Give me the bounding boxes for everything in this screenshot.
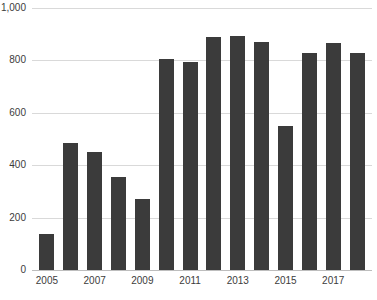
x-tick-label: 2015	[274, 274, 298, 294]
bar[interactable]	[278, 126, 293, 270]
x-tick-label	[107, 274, 131, 294]
bar-slot	[83, 8, 107, 270]
bar-slot	[202, 8, 226, 270]
x-tick-label	[59, 274, 83, 294]
bar[interactable]	[206, 37, 221, 270]
bar-slot	[35, 8, 59, 270]
x-tick-label	[202, 274, 226, 294]
bar-slot	[178, 8, 202, 270]
bar[interactable]	[39, 234, 54, 270]
x-tick-label: 2009	[130, 274, 154, 294]
y-tick-label: 800	[0, 55, 26, 65]
x-tick-label: 2013	[226, 274, 250, 294]
y-tick-label: 600	[0, 108, 26, 118]
bar[interactable]	[254, 42, 269, 270]
bar-slot	[321, 8, 345, 270]
bar[interactable]	[230, 36, 245, 270]
y-tick-label: 200	[0, 213, 26, 223]
x-tick-label	[250, 274, 274, 294]
bar-slot	[226, 8, 250, 270]
x-tick-label	[154, 274, 178, 294]
bar-slot	[130, 8, 154, 270]
bar[interactable]	[326, 43, 341, 270]
x-tick-label: 2011	[178, 274, 202, 294]
bar[interactable]	[111, 177, 126, 270]
bar-slot	[345, 8, 369, 270]
bar[interactable]	[159, 59, 174, 270]
bar[interactable]	[302, 53, 317, 270]
bar[interactable]	[135, 199, 150, 270]
bar[interactable]	[87, 152, 102, 270]
bar-chart: 2005200720092011201320152017 02004006008…	[0, 0, 377, 300]
x-tick-label	[345, 274, 369, 294]
bar-slot	[274, 8, 298, 270]
bar[interactable]	[183, 62, 198, 270]
bar-slot	[154, 8, 178, 270]
x-tick-label: 2017	[321, 274, 345, 294]
bar-slot	[59, 8, 83, 270]
gridline-0	[32, 270, 372, 271]
bar-slot	[250, 8, 274, 270]
y-tick-label: 0	[0, 265, 26, 275]
x-tick-label: 2005	[35, 274, 59, 294]
bar-slot	[107, 8, 131, 270]
x-tick-label: 2007	[83, 274, 107, 294]
x-tick-label	[297, 274, 321, 294]
bar-slot	[297, 8, 321, 270]
y-tick-label: 1,000	[0, 3, 26, 13]
bar[interactable]	[63, 143, 78, 270]
x-axis-tick-labels: 2005200720092011201320152017	[32, 274, 372, 294]
y-tick-label: 400	[0, 160, 26, 170]
bar[interactable]	[350, 53, 365, 270]
plot-area	[32, 8, 372, 270]
bar-series	[32, 8, 372, 270]
